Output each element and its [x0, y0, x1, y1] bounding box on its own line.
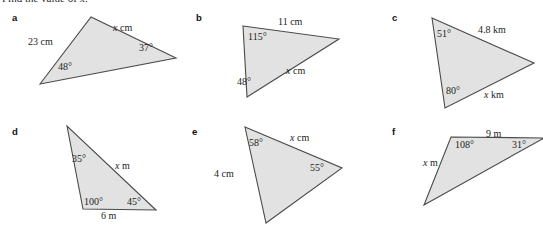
f-angle-31: 31° [512, 140, 526, 150]
b-angle-115: 115° [248, 32, 267, 42]
d-side-x-m: x m [115, 161, 130, 171]
e-side-4cm: 4 cm [214, 169, 234, 179]
d-angle-45: 45° [127, 197, 141, 207]
d-angle-35: 35° [72, 154, 86, 164]
e-angle-55: 55° [310, 163, 324, 173]
exercise-sheet: Find the value of x. a23 cmx cm48°37°b11… [0, 0, 543, 226]
d-side-6m: 6 m [101, 211, 116, 221]
item-label-f: f [392, 127, 395, 137]
f-side-9m: 9 m [486, 129, 501, 139]
f-side-x-m: x m [423, 158, 438, 168]
d-angle-100: 100° [84, 197, 103, 207]
b-side-11cm: 11 cm [278, 17, 302, 27]
c-side-x-km: x km [484, 90, 504, 100]
f-angle-108: 108° [455, 140, 474, 150]
item-label-c: c [392, 13, 397, 23]
triangle-a [40, 17, 176, 84]
item-label-a: a [12, 13, 17, 23]
e-angle-58: 58° [249, 138, 263, 148]
e-side-x-cm: x cm [290, 133, 309, 143]
triangle-d [67, 126, 156, 210]
item-label-d: d [12, 127, 18, 137]
a-angle-48: 48° [58, 62, 72, 72]
b-angle-48: 48° [237, 77, 251, 87]
c-angle-51: 51° [437, 29, 451, 39]
c-side-4.8km: 4.8 km [478, 25, 506, 35]
c-angle-80: 80° [446, 86, 460, 96]
a-angle-37: 37° [139, 43, 153, 53]
item-label-b: b [196, 13, 202, 23]
item-label-e: e [192, 127, 197, 137]
triangle-figures-layer [0, 0, 543, 226]
a-side-23cm: 23 cm [28, 37, 53, 47]
a-side-x-cm: x cm [113, 23, 132, 33]
b-side-x-cm: x cm [286, 66, 305, 76]
